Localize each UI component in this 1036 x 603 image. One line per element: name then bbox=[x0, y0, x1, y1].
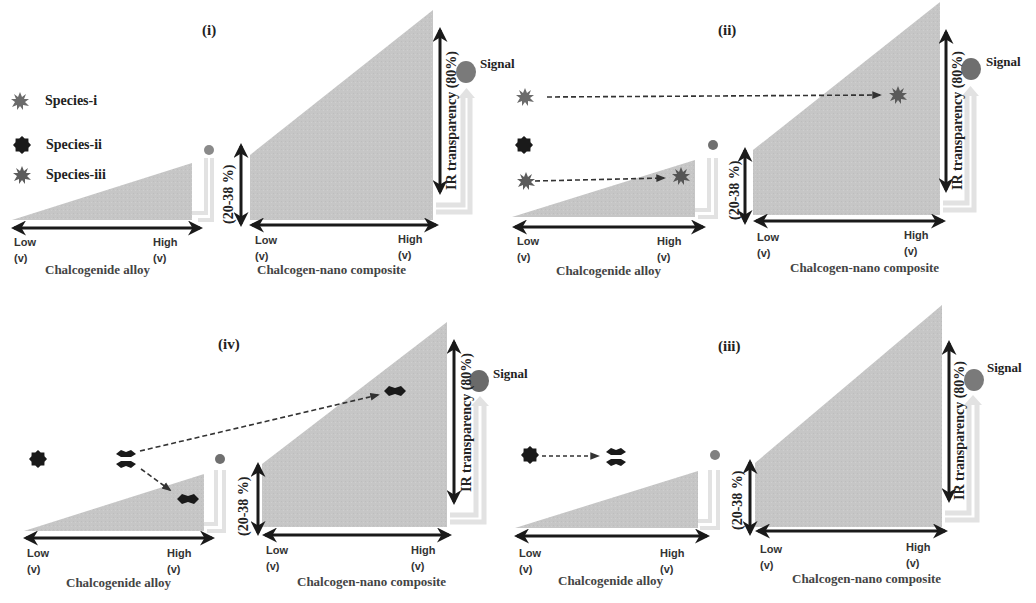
panel-iii bbox=[515, 305, 984, 536]
composite-high-label: High (v) bbox=[904, 227, 928, 259]
alloy-high-label: High (v) bbox=[167, 545, 191, 577]
alloy-caption: Chalcogenide alloy bbox=[66, 575, 171, 591]
alloy-signal-channel bbox=[192, 158, 212, 220]
species-ii-icon bbox=[13, 136, 31, 154]
composite-high-label: High (v) bbox=[398, 231, 422, 263]
signal-label: Signal bbox=[493, 366, 528, 382]
alloy-signal-balloon bbox=[708, 140, 718, 150]
species-ii-icon bbox=[29, 450, 47, 468]
signal-label: Signal bbox=[986, 54, 1021, 70]
panel-ii bbox=[512, 2, 981, 227]
composite-low-label: Low (v) bbox=[757, 229, 779, 261]
bandgap-label: (20-38 %) bbox=[221, 165, 237, 225]
species-ii-icon bbox=[515, 136, 533, 154]
species-i-icon bbox=[516, 88, 534, 106]
signal-label: Signal bbox=[987, 360, 1022, 376]
alloy-low-label: Low (v) bbox=[14, 234, 36, 266]
composite-triangle bbox=[262, 322, 447, 527]
composite-low-label: Low (v) bbox=[760, 541, 782, 573]
alloy-signal-balloon bbox=[215, 454, 225, 464]
alloy-signal-channel bbox=[698, 470, 718, 528]
alloy-signal-balloon bbox=[204, 145, 214, 155]
alloy-low-label: Low (v) bbox=[27, 545, 49, 577]
alloy-low-label: Low (v) bbox=[517, 233, 539, 265]
alloy-signal-channel bbox=[204, 470, 224, 531]
composite-high-label: High (v) bbox=[411, 542, 435, 574]
composite-triangle bbox=[753, 2, 940, 215]
composite-triangle bbox=[250, 10, 433, 220]
ir-transparency-label: IR transparency (80%) bbox=[952, 361, 968, 500]
composite-caption: Chalcogen-nano composite bbox=[792, 571, 941, 587]
bandgap-label: (20-38 %) bbox=[236, 477, 252, 537]
alloy-signal-channel bbox=[695, 158, 716, 217]
diagram-canvas: (i) Species-i Species-ii Species-iii Low… bbox=[0, 0, 1036, 603]
ir-transparency-label: IR transparency (80%) bbox=[444, 51, 460, 190]
legend-species-i-label: Species-i bbox=[45, 93, 97, 109]
species-ii-icon bbox=[521, 446, 539, 464]
composite-caption: Chalcogen-nano composite bbox=[790, 260, 939, 276]
panel-iv bbox=[24, 322, 489, 538]
panel-title-ii: (ii) bbox=[718, 22, 736, 39]
bandgap-label: (20-38 %) bbox=[730, 471, 746, 531]
alloy-signal-balloon bbox=[710, 450, 720, 460]
composite-low-label: Low (v) bbox=[255, 232, 277, 264]
alloy-caption: Chalcogenide alloy bbox=[45, 262, 150, 278]
signal-label: Signal bbox=[480, 56, 515, 72]
species-iii-icon bbox=[13, 166, 31, 184]
alloy-triangle bbox=[24, 474, 204, 531]
panel-i bbox=[11, 10, 476, 228]
legend-species-ii-label: Species-ii bbox=[46, 137, 102, 153]
panel-title-iv: (iv) bbox=[218, 336, 240, 353]
species-i-icon bbox=[11, 92, 29, 110]
composite-caption: Chalcogen-nano composite bbox=[297, 574, 446, 590]
species-iii-icon bbox=[517, 172, 535, 190]
bandgap-label: (20-38 %) bbox=[727, 161, 743, 221]
composite-low-label: Low (v) bbox=[266, 542, 288, 574]
species-ii-dimer-icon bbox=[116, 450, 136, 468]
legend-species-iii-label: Species-iii bbox=[46, 167, 106, 183]
alloy-low-label: Low (v) bbox=[519, 545, 541, 577]
panel-title-iii: (iii) bbox=[718, 338, 741, 355]
alloy-high-label: High (v) bbox=[153, 234, 177, 266]
alloy-caption: Chalcogenide alloy bbox=[558, 573, 663, 589]
alloy-caption: Chalcogenide alloy bbox=[556, 263, 661, 279]
composite-triangle bbox=[755, 305, 942, 527]
ir-transparency-label: IR transparency (80%) bbox=[950, 51, 966, 190]
alloy-triangle bbox=[512, 160, 695, 217]
alloy-high-label: High (v) bbox=[657, 233, 681, 265]
alloy-triangle bbox=[515, 471, 698, 528]
alloy-high-label: High (v) bbox=[660, 545, 684, 577]
composite-high-label: High (v) bbox=[906, 539, 930, 571]
signal-arrowhead bbox=[458, 88, 475, 98]
ir-transparency-label: IR transparency (80%) bbox=[459, 353, 475, 492]
panel-title-i: (i) bbox=[202, 22, 216, 39]
composite-caption: Chalcogen-nano composite bbox=[257, 262, 406, 278]
species-ii-dimer-icon bbox=[606, 448, 626, 466]
